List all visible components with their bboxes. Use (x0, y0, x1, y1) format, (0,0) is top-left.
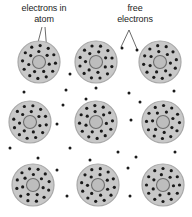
bound-electron (45, 123, 48, 126)
free-electron (69, 147, 72, 150)
bound-electron (42, 196, 45, 199)
bound-electron (42, 70, 45, 73)
bound-electron (37, 50, 40, 53)
bound-electron (160, 173, 163, 176)
atom-r3c3 (142, 164, 184, 206)
bound-electron (156, 44, 159, 47)
bound-electron (37, 115, 40, 118)
bound-electron (24, 51, 27, 54)
bound-electron (81, 130, 84, 133)
free-electron (37, 157, 40, 160)
bound-electron (28, 167, 31, 170)
bound-electron (23, 129, 26, 132)
bound-electron (109, 194, 112, 197)
bound-electron (90, 192, 93, 195)
bound-electron (143, 54, 146, 57)
bound-electron (149, 64, 152, 67)
bound-electron (106, 72, 109, 75)
bound-electron (151, 119, 154, 122)
leader-free-electron-right (129, 30, 137, 49)
bound-electron (27, 63, 30, 66)
atom-lattice-figure (0, 0, 192, 217)
bound-electron (84, 60, 87, 63)
free-electron (9, 147, 12, 150)
bound-electron (110, 65, 113, 68)
free-electron (65, 89, 68, 92)
atom-nucleus (24, 116, 37, 129)
bound-electron (171, 117, 174, 120)
free-electron (174, 151, 177, 154)
bound-electron (161, 77, 164, 80)
bound-electron (158, 193, 161, 196)
atom-r1c1 (18, 41, 60, 83)
atom-r2c3 (142, 101, 184, 143)
bound-electron (176, 113, 179, 116)
bound-electron (107, 170, 110, 173)
atom-r2c1 (9, 101, 51, 143)
bound-electron (103, 199, 106, 202)
bound-electron (153, 169, 156, 172)
bound-electron (18, 121, 21, 124)
free-electron (173, 90, 176, 93)
bound-electron (147, 192, 150, 195)
bound-electron (163, 131, 166, 134)
bound-electron (79, 56, 82, 59)
bound-electron (21, 59, 24, 62)
bound-electron (37, 168, 40, 171)
atom-r3c1 (12, 164, 54, 206)
free-electron (130, 119, 133, 122)
bound-electron (39, 108, 42, 111)
free-electron (62, 104, 65, 107)
bound-electron (18, 133, 21, 136)
bound-electron (88, 52, 91, 55)
bound-electron (148, 47, 151, 50)
atom-nucleus (154, 56, 167, 69)
atom-nucleus (92, 179, 105, 192)
bound-electron (104, 134, 107, 137)
bound-electron (78, 64, 81, 67)
leader-free-electron-left (121, 30, 129, 47)
bound-electron (96, 137, 99, 140)
bound-electron (165, 110, 168, 113)
bound-electron (19, 194, 22, 197)
bound-electron (46, 54, 49, 57)
bound-electron (93, 104, 96, 107)
bound-electron (54, 62, 57, 65)
bound-electron (161, 137, 164, 140)
bound-electron (142, 63, 145, 66)
bound-electron (176, 192, 179, 195)
free-electron (117, 151, 120, 154)
bound-electron (23, 105, 26, 108)
free-electron (56, 169, 59, 172)
bound-electron (26, 193, 29, 196)
bound-electron (78, 122, 81, 125)
bound-electron (98, 76, 101, 79)
bound-electron (32, 173, 35, 176)
bound-electron (45, 75, 48, 78)
bound-electron (42, 186, 45, 189)
bound-electron (83, 49, 86, 52)
bound-electron (36, 77, 39, 80)
bound-electron (90, 168, 93, 171)
bound-electron (154, 128, 157, 131)
bound-electron (16, 110, 19, 113)
bound-electron (147, 175, 150, 178)
atom-nucleus (90, 116, 103, 129)
bound-electron (48, 63, 51, 66)
bound-electron (109, 128, 112, 131)
bound-electron (36, 193, 39, 196)
bound-electron (170, 106, 173, 109)
bound-electron (31, 104, 34, 107)
bound-electron (29, 54, 32, 57)
bound-electron (88, 68, 91, 71)
bound-electron (39, 44, 42, 47)
bound-electron (91, 130, 94, 133)
free-electron (139, 101, 142, 104)
bound-electron (153, 134, 156, 137)
bound-electron (174, 67, 177, 70)
bound-electron (145, 120, 148, 123)
atom-nucleus (27, 179, 40, 192)
bound-electron (85, 107, 88, 110)
bound-electron (86, 184, 89, 187)
bound-electron (33, 70, 36, 73)
